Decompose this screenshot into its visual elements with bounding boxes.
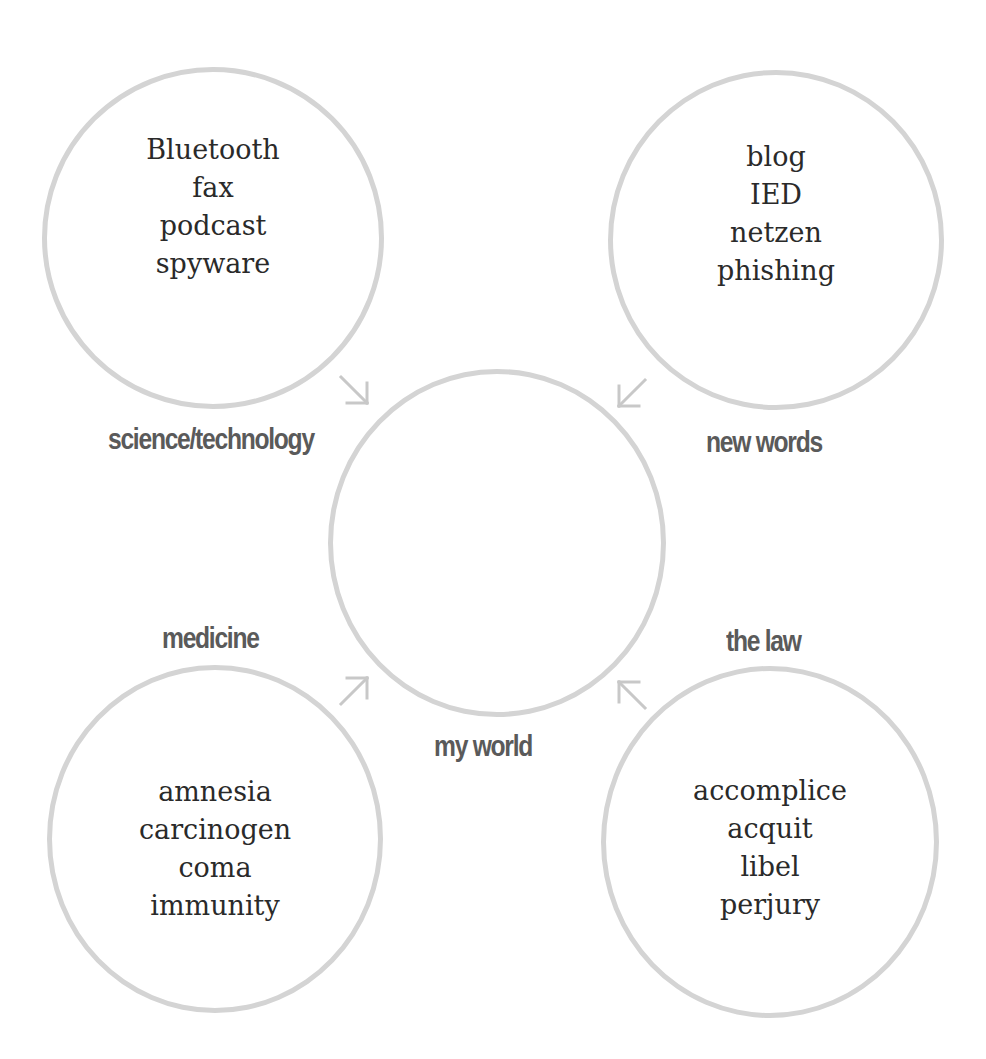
word-item: acquit xyxy=(727,810,812,848)
word-item: perjury xyxy=(720,886,820,924)
label-the-law: the law xyxy=(726,625,801,658)
label-medicine: medicine xyxy=(162,622,259,655)
word-item: coma xyxy=(178,849,251,887)
word-item: blog xyxy=(746,138,805,176)
circle-my-world xyxy=(328,369,666,717)
word-item: Bluetooth xyxy=(146,131,279,169)
circle-new-words: blog IED netzen phishing xyxy=(608,70,944,410)
word-item: carcinogen xyxy=(139,811,291,849)
word-item: IED xyxy=(750,176,802,214)
arrow-up-left-icon xyxy=(613,676,649,712)
label-new-words: new words xyxy=(706,426,822,459)
word-item: libel xyxy=(740,848,799,886)
arrow-down-right-icon xyxy=(337,373,373,409)
arrow-up-right-icon xyxy=(337,672,373,708)
word-item: podcast xyxy=(160,207,267,245)
arrow-down-left-icon xyxy=(613,376,649,412)
circle-science-technology: Bluetooth fax podcast spyware xyxy=(42,67,384,409)
word-item: netzen xyxy=(730,214,822,252)
circle-the-law: accomplice acquit libel perjury xyxy=(601,666,939,1018)
word-item: immunity xyxy=(150,887,279,925)
circle-medicine: amnesia carcinogen coma immunity xyxy=(47,665,383,1013)
word-item: accomplice xyxy=(693,772,847,810)
word-item: amnesia xyxy=(158,773,272,811)
label-my-world: my world xyxy=(434,730,532,763)
label-science-technology: science/technology xyxy=(108,423,314,456)
word-item: spyware xyxy=(156,245,271,283)
word-item: fax xyxy=(192,169,233,207)
word-item: phishing xyxy=(717,252,835,290)
